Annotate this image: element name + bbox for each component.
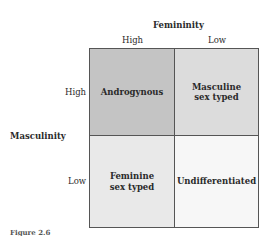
figure-caption: Figure 2.6 [10, 228, 50, 236]
masculinity-axis-title: Masculinity [10, 131, 66, 141]
femininity-level-low: Low [208, 35, 226, 45]
cell-undifferentiated: Undifferentiated [175, 136, 258, 227]
femininity-level-high: High [122, 35, 143, 45]
masculinity-level-high: High [65, 87, 86, 97]
cell-label: Androgynous [101, 87, 164, 97]
cell-label: Undifferentiated [177, 176, 256, 186]
cell-masculine-sex-typed: Masculine sex typed [175, 49, 258, 136]
cell-label-line1: Feminine [110, 171, 154, 181]
cell-feminine-sex-typed: Feminine sex typed [90, 136, 175, 227]
cell-label-line2: sex typed [192, 92, 241, 102]
cell-label-line1: Masculine [192, 82, 241, 92]
cell-androgynous: Androgynous [90, 49, 175, 136]
cell-label-line2: sex typed [110, 182, 154, 192]
femininity-axis-title: Femininity [153, 20, 204, 30]
quadrant-grid: Androgynous Masculine sex typed Feminine… [89, 48, 259, 228]
masculinity-level-low: Low [68, 176, 86, 186]
